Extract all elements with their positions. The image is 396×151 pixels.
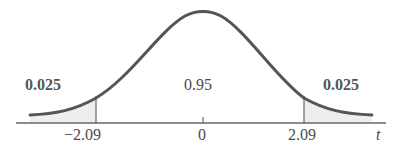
axis-label-t: t <box>376 127 380 143</box>
tick-label-neg: −2.09 <box>64 127 101 143</box>
right-tail-area-label: 0.025 <box>323 77 359 93</box>
tick-label-pos: 2.09 <box>288 127 316 143</box>
tick-label-zero: 0 <box>198 127 206 143</box>
center-area-label: 0.95 <box>184 77 212 93</box>
density-curve <box>30 12 372 116</box>
left-tail-area-label: 0.025 <box>25 77 61 93</box>
